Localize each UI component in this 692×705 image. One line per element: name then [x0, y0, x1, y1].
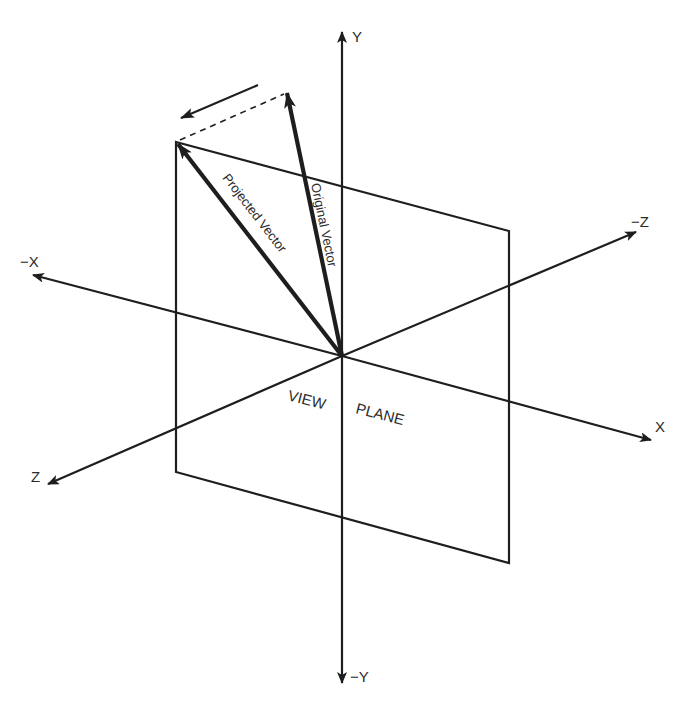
motion-arrow-icon: [181, 85, 258, 118]
z-axis-positive: [48, 356, 342, 484]
z-axis-negative: [342, 232, 636, 356]
y-negative-label: −Y: [350, 668, 369, 685]
axes: [33, 32, 651, 683]
projection-dashed-line: [180, 94, 284, 140]
original-vector: [287, 93, 342, 356]
x-axis-negative: [33, 275, 342, 356]
x-axis-positive: [342, 356, 651, 440]
x-negative-label: −X: [20, 253, 39, 270]
view-plane-projection-diagram: Y −Y −X X −Z Z Projected Vector Original…: [0, 0, 692, 705]
y-positive-label: Y: [352, 28, 362, 45]
view-plane-label-left: VIEW: [286, 386, 328, 412]
z-positive-label: Z: [31, 468, 40, 485]
view-plane-label-right: PLANE: [354, 399, 406, 428]
z-negative-label: −Z: [631, 213, 649, 230]
x-positive-label: X: [655, 418, 665, 435]
projected-vector: [178, 144, 342, 356]
